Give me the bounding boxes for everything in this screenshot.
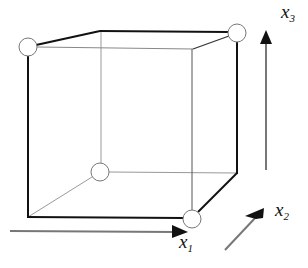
front-top-edge: [37, 47, 193, 49]
x1-axis-label: x1: [178, 231, 193, 254]
x1-label-subscript: 1: [187, 242, 193, 254]
back-top-edge: [100, 31, 228, 32]
x2-axis-arrowhead: [245, 208, 264, 219]
x2-axis-arrow-shaft: [225, 217, 256, 250]
design-point-back-top-right: [228, 24, 246, 42]
x2-axis-label: x2: [274, 199, 289, 222]
top-right-depth-edge: [193, 36, 229, 49]
top-left-depth-edge: [36, 31, 100, 45]
design-point-front-top-left: [19, 38, 37, 56]
front-bottom-edge: [27, 217, 184, 218]
x1-axis-arrow-shaft: [10, 231, 176, 232]
back-bottom-edge: [109, 172, 237, 173]
x3-axis-arrowhead: [260, 30, 272, 44]
x2-label-subscript: 2: [283, 210, 289, 222]
x3-axis-label: x3: [280, 1, 295, 24]
bottom-left-depth-edge: [28, 177, 92, 217]
design-point-back-bottom-left: [91, 163, 109, 181]
design-point-front-bottom-right: [183, 210, 201, 228]
x3-label-subscript: 3: [288, 12, 295, 24]
bottom-right-depth-edge: [198, 173, 237, 212]
cube-diagram: x1 x2 x3: [0, 0, 308, 268]
